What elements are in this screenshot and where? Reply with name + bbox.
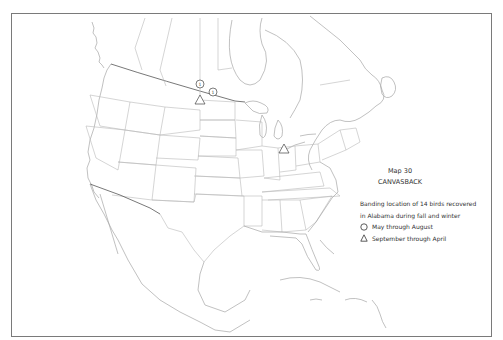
legend-row-circle: May through August [360, 221, 476, 233]
lake-ontario [300, 134, 316, 136]
lesser-antilles [372, 300, 386, 328]
jamaica [310, 299, 322, 300]
map-number: Map 30 [340, 166, 460, 177]
svg-text:1: 1 [212, 90, 215, 95]
lake-michigan [259, 115, 266, 138]
newfoundland [381, 77, 396, 98]
description-line-2: in Alabama during fall and winter [360, 210, 476, 222]
hudson-bay [229, 18, 266, 85]
hispaniola [345, 298, 367, 302]
west-coast [87, 64, 111, 198]
description-line-1: Banding location of 14 birds recovered [360, 198, 476, 210]
us-canada-border [111, 64, 245, 102]
svg-text:1: 1 [199, 82, 202, 87]
gulf-coast [244, 226, 320, 270]
map-legend: Banding location of 14 birds recovered i… [360, 198, 476, 244]
legend-label-triangle: September through April [372, 233, 446, 245]
central-america [215, 320, 250, 332]
texas [152, 194, 244, 262]
marker-triangle-north-dakota [195, 95, 205, 104]
marker-circle-saskatchewan: 1 [196, 80, 204, 88]
lake-superior [245, 101, 268, 114]
baja [100, 194, 118, 254]
triangle-icon [360, 234, 368, 242]
species-name: CANVASBACK [340, 177, 460, 188]
mexico-west-coast [90, 184, 215, 330]
marker-circle-manitoba: 1 [209, 88, 217, 96]
map-title-block: Map 30 CANVASBACK [340, 166, 460, 188]
mexico-gulf [198, 262, 250, 312]
cuba [280, 277, 340, 292]
legend-row-triangle: September through April [360, 233, 476, 245]
us-mexico-border [90, 184, 160, 214]
circle-icon [360, 223, 368, 231]
legend-label-circle: May through August [372, 221, 433, 233]
bc-coast [92, 22, 104, 68]
bahamas [320, 240, 334, 254]
labrador-coast [310, 16, 384, 118]
lake-huron [274, 120, 283, 139]
